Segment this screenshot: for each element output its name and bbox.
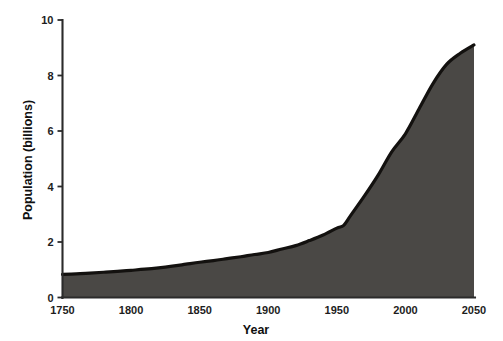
x-tick-label: 1750 — [50, 304, 74, 316]
population-area-chart: 0246810 1750180018501900195020002050 Yea… — [0, 0, 503, 341]
x-tick-label: 2000 — [393, 304, 417, 316]
y-tick-label: 2 — [47, 236, 53, 248]
y-tick-label: 10 — [41, 14, 53, 26]
y-tick-label: 6 — [47, 125, 53, 137]
x-tick-label: 1850 — [187, 304, 211, 316]
x-tick-label: 1800 — [119, 304, 143, 316]
y-axis-title: Population (billions) — [21, 100, 35, 220]
x-tick-label: 1950 — [325, 304, 349, 316]
y-tick-label: 4 — [47, 181, 54, 193]
y-tick-label: 8 — [47, 70, 53, 82]
x-tick-label: 2050 — [462, 304, 486, 316]
x-tick-label: 1900 — [256, 304, 280, 316]
chart-canvas: 0246810 1750180018501900195020002050 Yea… — [0, 0, 503, 341]
x-axis-title: Year — [243, 323, 270, 337]
y-tick-label: 0 — [47, 292, 53, 304]
